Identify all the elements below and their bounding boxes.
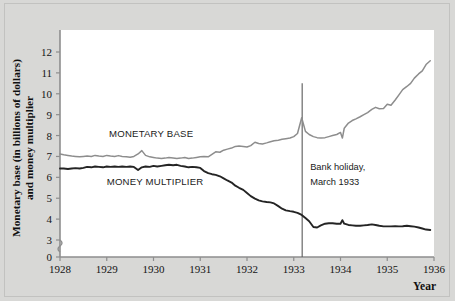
y-axis-tick-label: 10 — [41, 88, 53, 100]
figure-container: 0345678910111219281929193019311932193319… — [0, 0, 455, 301]
x-axis-tick-label: 1931 — [189, 263, 211, 275]
y-axis-tick-label: 3 — [47, 234, 53, 246]
monetary-base-label: MONETARY BASE — [109, 128, 193, 139]
y-axis-tick-label: 11 — [41, 67, 52, 79]
y-axis-tick-label: 6 — [47, 171, 53, 183]
y-axis-tick-label: 8 — [47, 130, 53, 142]
x-axis-tick-label: 1929 — [96, 263, 119, 275]
bank-holiday-annotation-line1: Bank holiday, — [310, 162, 365, 172]
x-axis-tick-label: 1934 — [330, 263, 353, 275]
x-axis-tick-label: 1930 — [143, 263, 166, 275]
y-axis-tick-label: 0 — [47, 251, 53, 263]
x-axis-tick-label: 1936 — [423, 263, 446, 275]
plot-area-background — [60, 30, 434, 257]
x-axis-tick-label: 1928 — [49, 263, 72, 275]
chart-plot-wrapper: 0345678910111219281929193019311932193319… — [0, 0, 455, 301]
y-axis-tick-label: 12 — [41, 46, 52, 58]
bank-holiday-annotation-line2: March 1933 — [310, 177, 359, 187]
y-axis-title-line2: and money multiplier — [23, 96, 35, 200]
y-axis-tick-label: 7 — [47, 150, 53, 162]
x-axis-tick-label: 1932 — [236, 263, 258, 275]
y-axis-tick-label: 9 — [47, 109, 53, 121]
y-axis-title-line1: Monetary base (in billions of dollars) — [10, 59, 23, 237]
y-axis-tick-label: 4 — [47, 213, 53, 225]
y-axis-tick-label: 5 — [47, 192, 53, 204]
line-chart: 0345678910111219281929193019311932193319… — [0, 0, 455, 301]
x-axis-tick-label: 1935 — [376, 263, 399, 275]
x-axis-tick-label: 1933 — [283, 263, 306, 275]
money-multiplier-label: MONEY MULTIPLIER — [107, 176, 204, 187]
x-axis-title: Year — [413, 280, 436, 292]
